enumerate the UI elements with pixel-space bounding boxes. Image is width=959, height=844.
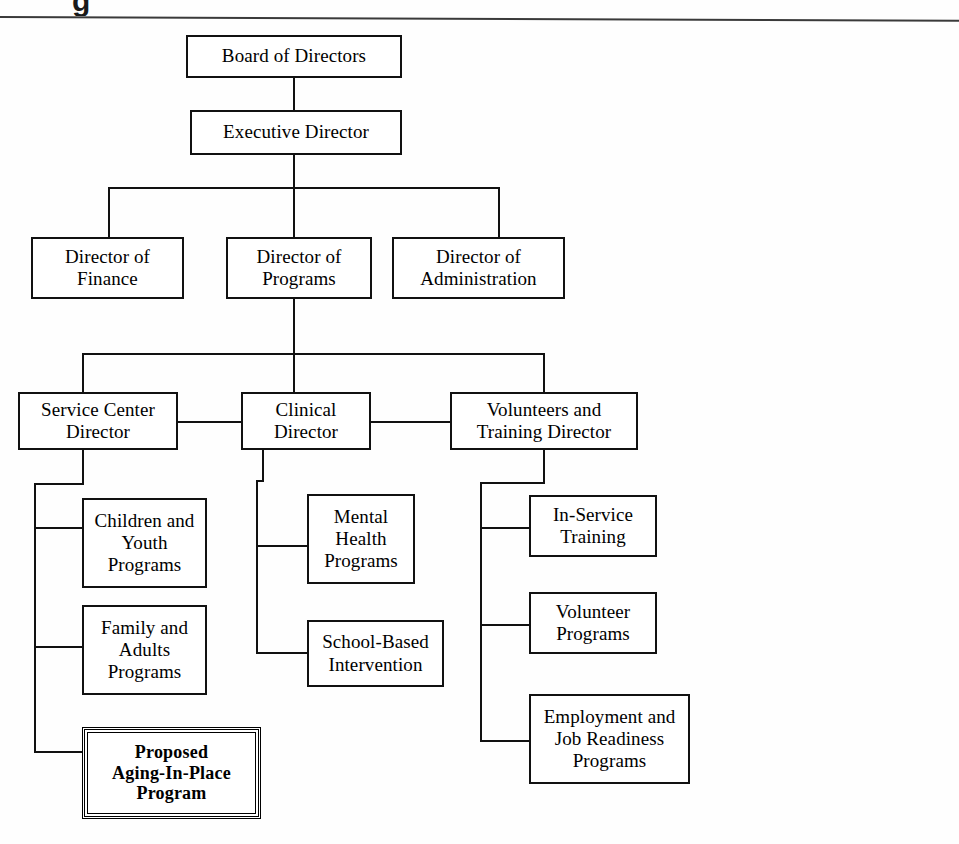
node-volunteers-and-training-director[interactable]: Volunteers and Training Director [450, 392, 638, 450]
node-director-of-programs[interactable]: Director of Programs [226, 237, 372, 299]
edge-service-to-family [34, 646, 82, 648]
edge-service-jog [34, 483, 84, 485]
edge-clinical-spine [256, 480, 258, 654]
edge-programs-busbar [82, 353, 543, 355]
node-proposed-aging-in-place-program[interactable]: Proposed Aging-In-Place Program [82, 727, 261, 819]
edge-clinical-drop [262, 450, 264, 480]
edge-volunteers-drop [543, 450, 545, 482]
edge-busbar-to-programs [293, 187, 295, 237]
node-school-based-intervention[interactable]: School-Based Intervention [307, 620, 444, 687]
node-in-service-training[interactable]: In-Service Training [529, 495, 657, 557]
edge-service-drop [82, 450, 84, 483]
node-executive-director[interactable]: Executive Director [190, 110, 402, 155]
partial-header-glyph: g [72, 0, 90, 16]
node-clinical-director[interactable]: Clinical Director [241, 392, 371, 450]
edge-service-to-children [34, 527, 82, 529]
node-children-and-youth-programs[interactable]: Children and Youth Programs [82, 498, 207, 588]
edge-volunteers-jog [480, 482, 545, 484]
edge-clinical-to-school [256, 652, 307, 654]
edge-service-to-clinical [178, 421, 243, 423]
edge-busbar-to-volunteers-training [543, 353, 545, 392]
edge-service-spine [34, 483, 36, 753]
node-family-and-adults-programs[interactable]: Family and Adults Programs [82, 605, 207, 695]
edge-busbar-to-administration [498, 187, 500, 237]
node-director-of-finance[interactable]: Director of Finance [31, 237, 184, 299]
node-board-of-directors[interactable]: Board of Directors [186, 35, 402, 78]
edge-busbar-to-finance [108, 187, 110, 237]
edge-clinical-to-mental [256, 545, 307, 547]
edge-volunteers-spine [480, 482, 482, 742]
edge-exec-busbar [108, 187, 500, 189]
edge-volunteers-to-employment [480, 740, 529, 742]
edge-board-exec [293, 78, 295, 110]
edge-service-to-aging [34, 751, 84, 753]
edge-volunteers-to-inservice [480, 527, 529, 529]
node-mental-health-programs[interactable]: Mental Health Programs [307, 494, 415, 584]
org-chart-page: g Board of Directors Executive Director … [0, 0, 959, 844]
node-employment-and-job-readiness-programs[interactable]: Employment and Job Readiness Programs [529, 694, 690, 784]
edge-programs-drop [293, 299, 295, 353]
node-service-center-director[interactable]: Service Center Director [18, 392, 178, 450]
edge-clinical-to-volunteers [371, 421, 450, 423]
node-director-of-administration[interactable]: Director of Administration [392, 237, 565, 299]
edge-busbar-to-clinical [293, 353, 295, 392]
node-volunteer-programs[interactable]: Volunteer Programs [529, 592, 657, 654]
edge-exec-drop [293, 155, 295, 187]
header-rule [0, 16, 959, 22]
edge-volunteers-to-volunteer [480, 624, 529, 626]
edge-busbar-to-service-center [82, 353, 84, 392]
